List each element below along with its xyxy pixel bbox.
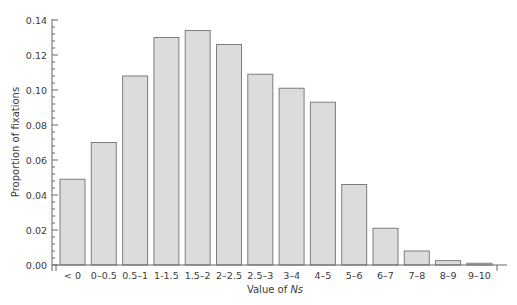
bar-10 bbox=[373, 228, 398, 265]
y-tick-label: 0.14 bbox=[26, 15, 47, 26]
y-axis-title: Proportion of fixations bbox=[10, 87, 21, 197]
bar-3 bbox=[154, 38, 179, 266]
x-tick-label: 4–5 bbox=[314, 270, 331, 281]
y-tick-label: 0.02 bbox=[26, 225, 47, 236]
x-tick-label: 1.5–2 bbox=[185, 270, 211, 281]
y-tick-label: 0.08 bbox=[26, 120, 47, 131]
x-tick-label: 0–0.5 bbox=[91, 270, 117, 281]
x-tick-label: 2.5–3 bbox=[247, 270, 273, 281]
y-tick-label: 0.06 bbox=[26, 155, 47, 166]
x-tick-label: < 0 bbox=[64, 270, 81, 281]
y-tick-label: 0.10 bbox=[26, 85, 47, 96]
bar-2 bbox=[123, 76, 148, 265]
bars bbox=[60, 31, 492, 266]
x-tick-label: 9–10 bbox=[468, 270, 491, 281]
x-tick-label: 8–9 bbox=[440, 270, 457, 281]
bar-6 bbox=[248, 74, 273, 265]
x-tick-label: 1-1.5 bbox=[154, 270, 179, 281]
x-tick-label: 6–7 bbox=[377, 270, 394, 281]
y-tick-label: 0.12 bbox=[26, 50, 47, 61]
y-tick-label: 0.04 bbox=[26, 190, 47, 201]
bar-chart: 0.000.020.040.060.080.100.120.14 < 00–0.… bbox=[0, 0, 517, 305]
y-tick-label: 0.00 bbox=[26, 260, 47, 271]
x-tick-label: 0.5–1 bbox=[122, 270, 148, 281]
x-tick-label: 5–6 bbox=[346, 270, 363, 281]
bar-1 bbox=[91, 143, 116, 266]
bar-9 bbox=[342, 185, 367, 266]
x-tick-label: 2–2.5 bbox=[216, 270, 242, 281]
bar-7 bbox=[279, 88, 304, 265]
bar-12 bbox=[436, 261, 461, 265]
bar-8 bbox=[310, 102, 335, 265]
x-axis: < 00–0.50.5–11-1.51.5–22–2.52.5–33–44–55… bbox=[52, 265, 507, 281]
x-tick-label: 7–8 bbox=[408, 270, 425, 281]
x-tick-label: 3–4 bbox=[283, 270, 300, 281]
bar-11 bbox=[404, 251, 429, 265]
bar-0 bbox=[60, 179, 85, 265]
y-axis: 0.000.020.040.060.080.100.120.14 bbox=[26, 15, 58, 272]
bar-4 bbox=[185, 31, 210, 266]
x-axis-title: Value of Ns bbox=[247, 284, 303, 295]
bar-5 bbox=[217, 45, 242, 266]
